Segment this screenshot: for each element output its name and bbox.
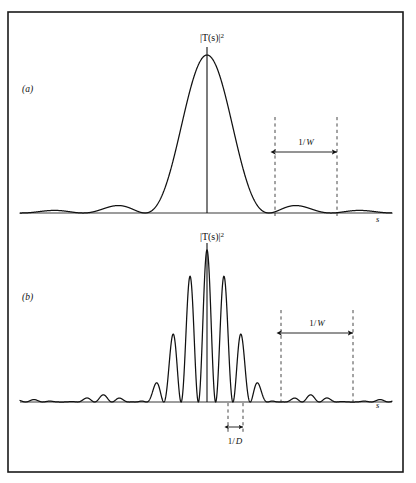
- panel-a-width-label: 1/W: [298, 137, 315, 147]
- panel-b-fringed-curve: [20, 250, 392, 402]
- panel-b-label: (b): [22, 292, 33, 303]
- figure-border: [8, 12, 403, 472]
- panel-b-fringe-spacing-label: 1/D: [228, 436, 243, 446]
- panel-a-axis-label: s: [376, 214, 380, 224]
- panel-a-curve-label: |T(s)|2: [200, 32, 225, 45]
- diffraction-figure: 1/W |T(s)|2 (a) s 1/W 1/D |T(s)|2 (b) s: [0, 0, 416, 483]
- panel-b-curve-label: |T(s)|2: [200, 231, 225, 244]
- panel-b: 1/W 1/D |T(s)|2 (b) s: [20, 231, 392, 447]
- panel-a-sinc-squared-curve: [20, 55, 392, 213]
- figure-container: 1/W |T(s)|2 (a) s 1/W 1/D |T(s)|2 (b) s: [0, 0, 416, 483]
- panel-a-label: (a): [22, 84, 33, 95]
- panel-a: 1/W |T(s)|2 (a) s: [20, 32, 392, 225]
- panel-b-width-label: 1/W: [309, 318, 326, 328]
